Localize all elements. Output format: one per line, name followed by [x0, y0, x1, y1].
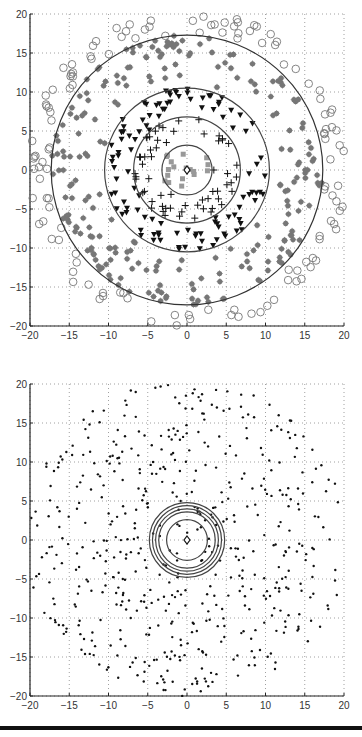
- x-tick-label: 5: [223, 330, 229, 341]
- x-tick-label: 0: [184, 330, 190, 341]
- y-tick-label: −5: [16, 204, 28, 215]
- x-tick-label: −20: [22, 330, 39, 341]
- y-tick-label: −15: [10, 652, 27, 663]
- bottom-scatter-plot: −20−15−10−50510152020151050−5−10−15−20: [0, 370, 362, 720]
- x-tick-label: −15: [61, 330, 78, 341]
- x-tick-label: 15: [299, 330, 311, 341]
- x-tick-label: 10: [260, 700, 272, 711]
- y-tick-label: 20: [16, 379, 28, 390]
- x-tick-label: 15: [299, 700, 311, 711]
- y-tick-label: 5: [21, 496, 27, 507]
- x-tick-label: −5: [142, 330, 154, 341]
- top-plot-canvas: −20−15−10−50510152020151050−5−10−15−20: [0, 0, 362, 350]
- x-tick-label: 5: [223, 700, 229, 711]
- top-scatter-plot: −20−15−10−50510152020151050−5−10−15−20: [0, 0, 362, 350]
- x-tick-label: 10: [260, 330, 272, 341]
- x-tick-label: −10: [100, 330, 117, 341]
- y-tick-label: 0: [21, 535, 27, 546]
- y-tick-label: −15: [10, 282, 27, 293]
- y-tick-label: 20: [16, 9, 28, 20]
- tick-labels: −20−15−10−50510152020151050−5−10−15−20: [10, 9, 350, 342]
- x-tick-label: 0: [184, 700, 190, 711]
- y-tick-label: −10: [10, 613, 27, 624]
- y-tick-label: 10: [16, 457, 28, 468]
- x-tick-label: 20: [338, 330, 350, 341]
- x-tick-label: 20: [338, 700, 350, 711]
- y-tick-label: 15: [16, 48, 28, 59]
- y-tick-label: −10: [10, 243, 27, 254]
- y-tick-label: −5: [16, 574, 28, 585]
- x-tick-label: −5: [142, 700, 154, 711]
- y-tick-label: −20: [10, 321, 27, 332]
- x-tick-label: −20: [22, 700, 39, 711]
- x-tick-label: −15: [61, 700, 78, 711]
- bottom-plot-canvas: −20−15−10−50510152020151050−5−10−15−20: [0, 370, 362, 720]
- y-tick-label: −20: [10, 691, 27, 702]
- y-tick-label: 15: [16, 418, 28, 429]
- center-diamond-marker: [184, 536, 190, 544]
- y-tick-label: 10: [16, 87, 28, 98]
- x-tick-label: −10: [100, 700, 117, 711]
- y-tick-label: 0: [21, 165, 27, 176]
- y-tick-label: 5: [21, 126, 27, 137]
- page-divider-rule: [0, 726, 362, 730]
